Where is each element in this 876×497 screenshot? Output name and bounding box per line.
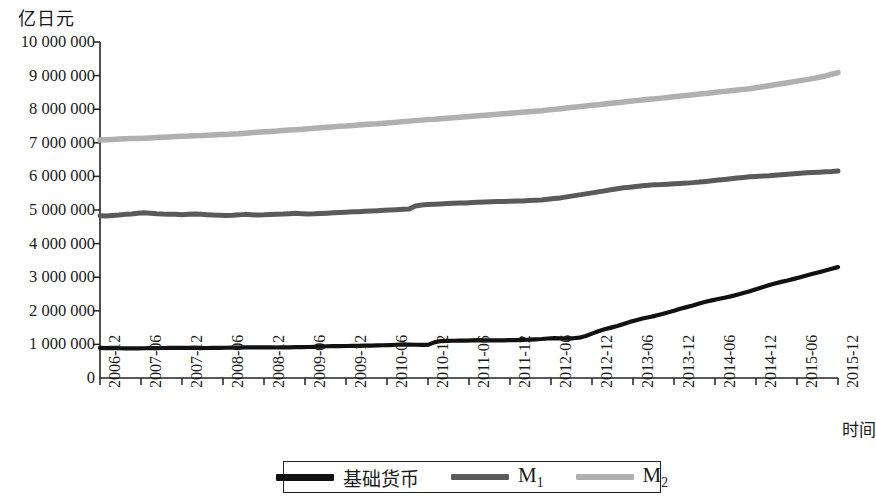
x-axis-tick-label: 2014-12 <box>762 335 780 388</box>
legend-label: 基础货币 <box>343 464 419 491</box>
y-axis-tick-label: 10 000 000 <box>21 32 95 52</box>
y-axis-tick-label: 8 000 000 <box>29 99 95 119</box>
legend-label: M2 <box>643 463 669 491</box>
legend-color-swatch <box>276 474 334 481</box>
series-line-m2 <box>100 73 838 141</box>
x-axis-tick-label: 2013-06 <box>639 335 657 388</box>
x-axis-tick-label: 2013-12 <box>680 335 698 388</box>
x-axis-tick-label: 2008-12 <box>270 335 288 388</box>
data-series-group <box>100 73 838 349</box>
y-axis-tick-labels: 10 000 0009 000 0008 000 0007 000 0006 0… <box>0 0 95 497</box>
y-axis-tick-label: 5 000 000 <box>29 200 95 220</box>
x-axis-tick-label: 2012-06 <box>557 335 575 388</box>
y-axis-tick-label: 9 000 000 <box>29 66 95 86</box>
y-axis-tick-label: 2 000 000 <box>29 301 95 321</box>
legend-label-subscript: 1 <box>537 475 544 490</box>
x-axis-tick-label: 2010-12 <box>434 335 452 388</box>
y-axis-tick-label: 0 <box>87 368 95 388</box>
legend-label: M1 <box>518 463 544 491</box>
x-axis-tick-label: 2008-06 <box>229 335 247 388</box>
legend-label-subscript: 2 <box>661 475 668 490</box>
x-axis-tick-label: 2010-06 <box>393 335 411 388</box>
legend-label-text: M <box>518 463 537 487</box>
y-axis-tick-label: 7 000 000 <box>29 133 95 153</box>
legend-item[interactable]: M1 <box>435 463 560 491</box>
chart-legend: 基础货币M1M2 <box>283 461 661 493</box>
y-axis-tick-label: 6 000 000 <box>29 166 95 186</box>
legend-color-swatch <box>451 474 509 480</box>
legend-item[interactable]: 基础货币 <box>260 464 435 491</box>
x-axis-title: 时间 <box>842 416 876 441</box>
y-axis-tick-label: 3 000 000 <box>29 267 95 287</box>
y-axis-tick-label: 1 000 000 <box>29 334 95 354</box>
x-axis-tick-label: 2007-06 <box>147 335 165 388</box>
x-axis-tick-label: 2015-06 <box>803 335 821 388</box>
x-axis-tick-label: 2006-12 <box>106 335 124 388</box>
series-line-m1 <box>100 171 838 216</box>
x-axis-tick-label: 2014-06 <box>721 335 739 388</box>
x-axis-tick-label: 2011-12 <box>516 335 534 388</box>
x-axis-tick-label: 2015-12 <box>844 335 862 388</box>
x-axis-tick-label: 2012-12 <box>598 335 616 388</box>
legend-color-swatch <box>576 474 634 480</box>
x-axis-tick-label: 2011-06 <box>475 335 493 388</box>
legend-item[interactable]: M2 <box>560 463 685 491</box>
x-axis-tick-label: 2009-12 <box>352 335 370 388</box>
x-axis-tick-label: 2007-12 <box>188 335 206 388</box>
x-axis-tick-label: 2009-06 <box>311 335 329 388</box>
legend-label-text: M <box>643 463 662 487</box>
y-axis-tick-label: 4 000 000 <box>29 234 95 254</box>
